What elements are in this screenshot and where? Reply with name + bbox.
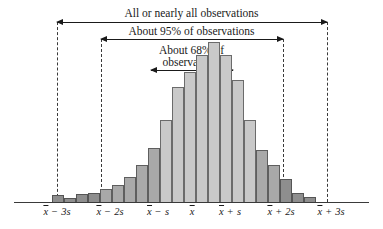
histogram-plot: [0, 0, 383, 229]
operator-symbol: −: [101, 206, 114, 217]
histogram-bar: [184, 72, 196, 203]
histogram-bar: [160, 120, 172, 203]
histogram-bar: [280, 179, 292, 203]
tick-label-minus-2s: x − 2s: [96, 206, 123, 217]
histogram-bar: [208, 42, 220, 203]
operator-symbol: +: [272, 206, 285, 217]
histogram-bar: [112, 185, 124, 203]
x-bar-symbol: x: [96, 206, 101, 217]
operator-symbol: −: [48, 206, 61, 217]
histogram-bar: [232, 80, 244, 203]
operator-symbol: +: [224, 206, 237, 217]
tick-label-mean: x: [190, 206, 195, 217]
histogram-bar: [148, 148, 160, 203]
operator-symbol: +: [322, 206, 335, 217]
histogram-bar: [124, 177, 136, 203]
figure-normal-distribution-empirical-rule: All or nearly all observations About 95%…: [0, 0, 383, 229]
histogram-bar: [244, 120, 256, 203]
operator-symbol: −: [152, 206, 165, 217]
sd-term: 2s: [114, 206, 123, 217]
x-axis-line: [14, 202, 369, 203]
histogram-bar: [172, 87, 184, 203]
histogram-bar: [256, 150, 268, 203]
x-bar-symbol: x: [267, 206, 272, 217]
histogram-bar: [196, 55, 208, 203]
x-bar-symbol: x: [147, 206, 152, 217]
sd-term: 3s: [335, 206, 344, 217]
histogram-bar: [136, 165, 148, 203]
tick-label-plus-1s: x + s: [219, 206, 241, 217]
tick-label-plus-3s: x + 3s: [317, 206, 344, 217]
x-bar-symbol: x: [43, 206, 48, 217]
sd-term: 2s: [285, 206, 294, 217]
tick-label-minus-1s: x − s: [147, 206, 169, 217]
tick-label-plus-2s: x + 2s: [267, 206, 294, 217]
x-bar-symbol: x: [190, 206, 195, 217]
sd-term: 3s: [61, 206, 70, 217]
histogram-bar: [100, 189, 112, 203]
tick-label-minus-3s: x − 3s: [43, 206, 70, 217]
x-bar-symbol: x: [219, 206, 224, 217]
sd-term: s: [165, 206, 169, 217]
histogram-bar: [268, 165, 280, 203]
x-bar-symbol: x: [317, 206, 322, 217]
sd-term: s: [237, 206, 241, 217]
histogram-bar: [220, 55, 232, 203]
